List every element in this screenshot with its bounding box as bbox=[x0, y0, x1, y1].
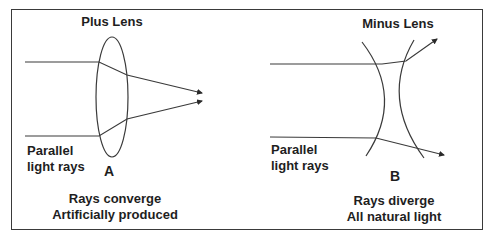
plus-bottom-ray bbox=[25, 101, 202, 136]
plus-top-ray bbox=[25, 62, 202, 93]
minus-lens-letter: B bbox=[390, 168, 400, 184]
plus-lens-group bbox=[25, 37, 202, 157]
plus-caption-line2: Artificially produced bbox=[52, 207, 178, 223]
plus-rays-label-line2: light rays bbox=[27, 159, 85, 175]
plus-lens-title: Plus Lens bbox=[81, 14, 142, 30]
plus-rays-label-line1: Parallel bbox=[27, 143, 73, 159]
minus-caption-line1: Rays diverge bbox=[354, 193, 435, 209]
minus-rays-label-line2: light rays bbox=[271, 158, 329, 174]
minus-rays-label-line1: Parallel bbox=[271, 142, 317, 158]
plus-lens-letter: A bbox=[104, 163, 114, 179]
minus-caption-line2: All natural light bbox=[347, 209, 442, 225]
plus-caption-line1: Rays converge bbox=[69, 191, 162, 207]
plus-lens-icon bbox=[96, 37, 128, 157]
minus-lens-title: Minus Lens bbox=[362, 16, 434, 32]
minus-lens-group bbox=[270, 39, 444, 158]
